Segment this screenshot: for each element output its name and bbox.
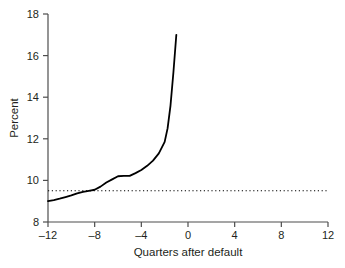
- y-tick-label: 18: [27, 8, 39, 20]
- x-tick-label: –12: [39, 229, 57, 241]
- chart-figure: 8 10 12 14 16 18 –12 –8 –4 0 4 8 12 Q: [0, 0, 345, 268]
- line-chart-plot: 8 10 12 14 16 18 –12 –8 –4 0 4 8 12 Q: [0, 0, 345, 268]
- x-tick-label: 4: [232, 229, 238, 241]
- y-tick-label: 12: [27, 133, 39, 145]
- x-tick-label: 12: [322, 229, 334, 241]
- y-tick-label: 14: [27, 91, 39, 103]
- y-tick-label: 8: [33, 216, 39, 228]
- chart-background: [0, 0, 345, 268]
- y-tick-label: 10: [27, 174, 39, 186]
- y-axis-title: Percent: [8, 97, 20, 137]
- x-tick-label: 8: [278, 229, 284, 241]
- x-tick-label: 0: [185, 229, 191, 241]
- y-tick-label: 16: [27, 50, 39, 62]
- x-tick-label: –4: [135, 229, 147, 241]
- x-axis-title: Quarters after default: [134, 246, 243, 258]
- x-tick-label: –8: [89, 229, 101, 241]
